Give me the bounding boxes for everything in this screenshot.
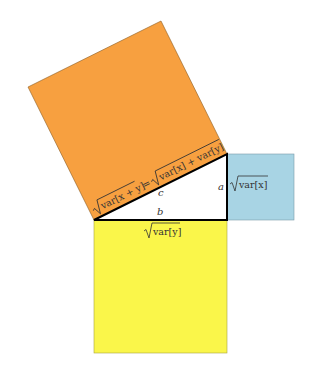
pythagorean-diagram: var[x + y] = var[x] + var[y] c a b var[x… — [0, 0, 312, 375]
side-b-square — [94, 220, 227, 353]
label-b: b — [157, 206, 163, 217]
label-c: c — [158, 187, 164, 198]
side-a-radicand: var[x] — [238, 179, 267, 190]
side-b-radicand: var[y] — [152, 226, 181, 237]
label-a: a — [218, 181, 224, 192]
